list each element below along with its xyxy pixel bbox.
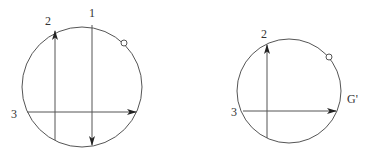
right-label-3: 3 (231, 105, 237, 119)
left-label-1: 1 (89, 6, 95, 20)
left-figure: 1 2 3 (11, 6, 142, 147)
left-label-2: 2 (45, 14, 51, 28)
diagram-svg: 1 2 3 2 3 G' (0, 0, 374, 154)
left-marker-circle (121, 40, 127, 46)
right-circle (237, 39, 341, 143)
right-label-2: 2 (261, 27, 267, 41)
right-marker-circle (326, 54, 332, 60)
right-figure: 2 3 G' (231, 27, 358, 143)
right-label-g-prime: G' (347, 92, 358, 106)
left-label-3: 3 (11, 107, 17, 121)
diagram-canvas: 1 2 3 2 3 G' (0, 0, 374, 154)
